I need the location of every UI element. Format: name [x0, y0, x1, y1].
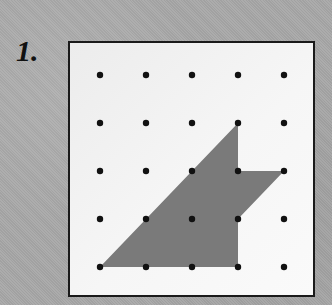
grid-dot	[97, 264, 103, 270]
grid-dot	[97, 168, 103, 174]
grid-dot	[281, 168, 287, 174]
shaded-polygon	[100, 123, 284, 267]
grid-dot	[143, 264, 149, 270]
grid-dot	[235, 264, 241, 270]
grid-dot	[189, 168, 195, 174]
grid-dot	[281, 216, 287, 222]
grid-dot	[189, 72, 195, 78]
grid-dot	[143, 120, 149, 126]
grid-dot	[281, 264, 287, 270]
grid-dot	[235, 72, 241, 78]
grid-dot	[281, 120, 287, 126]
grid-dot	[143, 216, 149, 222]
grid-dot	[235, 120, 241, 126]
grid-dot	[189, 216, 195, 222]
grid-dot	[189, 120, 195, 126]
grid-dot	[97, 216, 103, 222]
grid-dot	[143, 168, 149, 174]
dot-grid-box	[68, 41, 315, 297]
grid-dot	[143, 72, 149, 78]
grid-dot	[235, 168, 241, 174]
dot-grid-diagram	[70, 43, 313, 295]
problem-number: 1.	[16, 36, 39, 66]
grid-dot	[281, 72, 287, 78]
grid-dot	[189, 264, 195, 270]
grid-dot	[97, 72, 103, 78]
grid-dot	[97, 120, 103, 126]
grid-dot	[235, 216, 241, 222]
